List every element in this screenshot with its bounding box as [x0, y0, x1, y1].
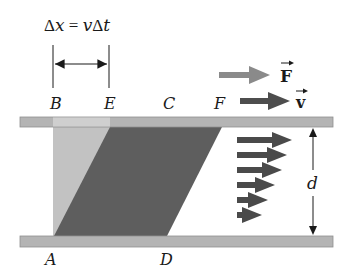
point-label-e: E — [103, 94, 116, 113]
velocity-vector-icon — [240, 92, 290, 110]
vector-hat-icon — [289, 61, 294, 66]
point-label-d: D — [159, 250, 173, 269]
point-label-f: F — [213, 94, 226, 113]
velocity-profile-arrows — [237, 132, 292, 223]
profile-arrow-icon — [237, 162, 282, 178]
arrow-down-icon — [309, 226, 317, 235]
shear-flow-diagram: Δx = vΔt F v B E C F d A — [0, 0, 358, 279]
profile-arrow-icon — [237, 177, 275, 193]
force-vector-icon — [219, 66, 270, 84]
profile-arrow-icon — [237, 192, 268, 208]
point-label-c: C — [163, 94, 175, 113]
displacement-equation: Δx = vΔt — [44, 15, 110, 35]
gap-label: d — [307, 173, 318, 193]
arrow-up-icon — [309, 128, 317, 137]
top-plate-displacement-segment — [53, 118, 110, 127]
point-label-a: A — [43, 250, 57, 269]
profile-arrow-icon — [237, 132, 292, 148]
velocity-label: v — [295, 93, 306, 112]
profile-arrow-icon — [237, 207, 262, 223]
force-label: F — [280, 66, 292, 86]
point-label-b: B — [49, 94, 62, 113]
profile-arrow-icon — [237, 147, 287, 163]
bottom-plate — [20, 236, 333, 247]
vector-hat-icon — [303, 89, 308, 94]
